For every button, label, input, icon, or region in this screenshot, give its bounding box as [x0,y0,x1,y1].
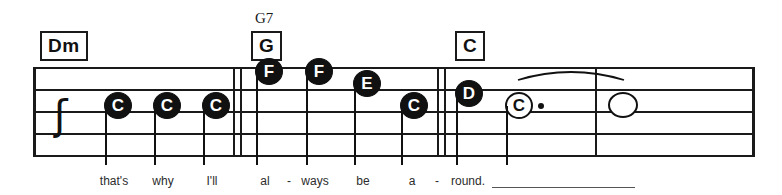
lyric-syllable: round. [451,174,485,188]
lyric-syllable: be [356,174,369,188]
barline [437,67,439,157]
staff-line [33,89,755,91]
note-stem [506,106,508,166]
lyric-syllable: al [260,174,269,188]
barline [233,67,235,157]
notehead-c[interactable]: C [202,92,230,119]
notehead-whole[interactable] [608,92,638,118]
lyric-syllable: a [409,174,416,188]
lyric-syllable: - [435,174,439,188]
notehead-f[interactable]: F [305,58,333,85]
barline [444,67,446,157]
staff-line [33,155,755,157]
notehead-c[interactable]: C [104,92,132,119]
lyric-extender-line [492,187,635,188]
notehead-f[interactable]: F [255,58,283,85]
note-stem [456,94,458,166]
lyric-syllable: ways [301,174,328,188]
barline [240,67,242,157]
lyric-syllable: why [152,174,173,188]
chord-symbol-upper: G7 [255,10,273,27]
note-stem [105,106,107,166]
notehead-c[interactable]: C [400,92,428,119]
staff-right-edge [752,67,755,157]
note-stem [154,106,156,166]
note-stem [203,106,205,166]
lyric-syllable: - [287,174,291,188]
lyric-syllable: I'll [207,174,218,188]
staff-line [33,67,755,69]
notehead-d[interactable]: D [455,80,483,107]
chord-box-dm[interactable]: Dm [40,31,88,61]
note-stem [256,72,258,166]
notehead-c[interactable]: C [505,92,533,119]
notehead-c[interactable]: C [153,92,181,119]
quarter-rest-icon: ʃ [46,95,67,135]
staff-line [33,111,755,113]
note-stem [354,84,356,166]
note-stem [401,106,403,166]
staff-left-edge [33,67,36,157]
staff-line [33,133,755,135]
chord-box-g[interactable]: G [251,31,282,61]
barline [595,67,597,157]
notehead-e[interactable]: E [353,70,381,97]
sheet-music-canvas: DmG7GC ʃ CCCFFECDC that'swhyI'llal-waysb… [0,0,782,195]
augmentation-dot [538,103,544,109]
chord-box-c[interactable]: C [455,31,485,61]
lyric-syllable: that's [100,174,128,188]
note-stem [306,72,308,166]
